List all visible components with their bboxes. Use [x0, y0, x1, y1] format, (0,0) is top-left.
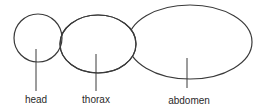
thorax-label: thorax — [82, 94, 110, 105]
abdomen-segment — [128, 5, 252, 79]
abdomen-label: abdomen — [168, 95, 210, 106]
head-label: head — [25, 94, 47, 105]
head-segment — [14, 14, 62, 62]
insect-body-diagram: head thorax abdomen — [0, 0, 266, 111]
